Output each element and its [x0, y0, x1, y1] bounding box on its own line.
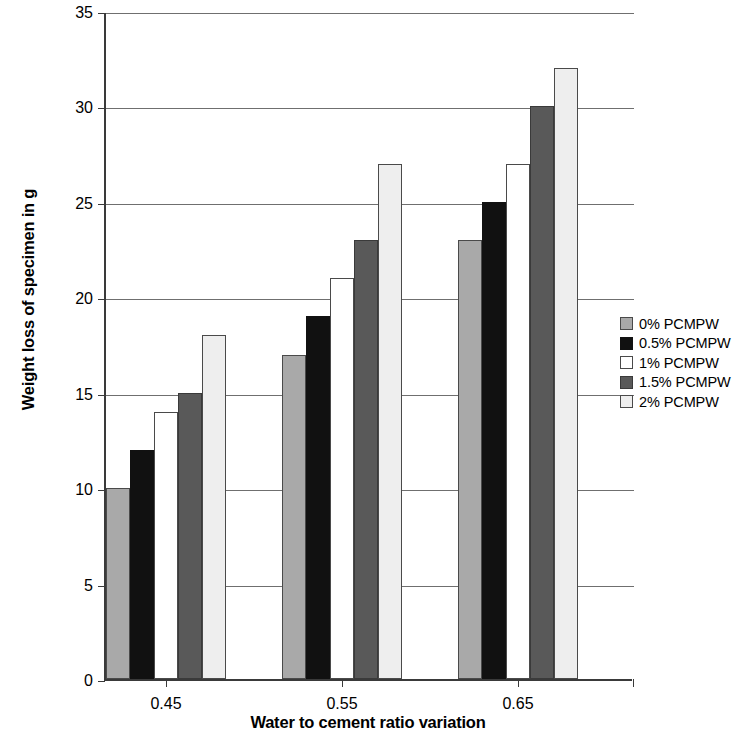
- x-axis-end-tick: [633, 679, 634, 687]
- legend-swatch-icon: [620, 395, 633, 408]
- y-axis-tick: [98, 13, 105, 14]
- chart-legend: 0% PCMPW0.5% PCMPW1% PCMPW1.5% PCMPW2% P…: [620, 314, 748, 412]
- legend-swatch-icon: [620, 317, 633, 330]
- legend-item: 1% PCMPW: [620, 353, 748, 373]
- x-axis-tick: [166, 679, 167, 687]
- y-axis-tick: [98, 108, 105, 109]
- bar: [178, 393, 202, 679]
- y-axis-tick-label: 5: [53, 577, 93, 595]
- y-axis-tick: [98, 681, 105, 682]
- plot-area: 051015202530350.450.550.65: [104, 13, 632, 681]
- y-axis-tick: [98, 204, 105, 205]
- bar: [282, 355, 306, 679]
- legend-swatch-icon: [620, 356, 633, 369]
- legend-item: 0.5% PCMPW: [620, 334, 748, 354]
- y-axis-tick-label: 20: [53, 290, 93, 308]
- bar-group: [282, 11, 402, 679]
- bar: [330, 278, 354, 679]
- y-axis-tick-label: 0: [53, 672, 93, 690]
- y-axis-tick-label: 15: [53, 386, 93, 404]
- y-axis-tick: [98, 395, 105, 396]
- y-axis-title: Weight loss of specimen in g: [19, 120, 38, 480]
- bar: [202, 335, 226, 679]
- x-axis-tick: [518, 679, 519, 687]
- bar: [378, 164, 402, 679]
- bar: [482, 202, 506, 679]
- legend-item: 0% PCMPW: [620, 314, 748, 334]
- y-axis-tick-label: 30: [53, 99, 93, 117]
- x-axis-tick-label: 0.65: [502, 695, 533, 713]
- bar: [354, 240, 378, 679]
- bar: [458, 240, 482, 679]
- bar: [530, 106, 554, 679]
- x-axis-tick: [342, 679, 343, 687]
- legend-item-label: 0% PCMPW: [639, 316, 719, 332]
- legend-item: 1.5% PCMPW: [620, 373, 748, 393]
- x-axis-tick-label: 0.55: [326, 695, 357, 713]
- legend-item-label: 2% PCMPW: [639, 394, 719, 410]
- legend-item-label: 0.5% PCMPW: [639, 335, 731, 351]
- y-axis-tick-label: 10: [53, 481, 93, 499]
- y-axis-tick-label: 25: [53, 195, 93, 213]
- legend-item: 2% PCMPW: [620, 392, 748, 412]
- x-axis-title: Water to cement ratio variation: [104, 713, 632, 732]
- bar: [130, 450, 154, 679]
- bar: [154, 412, 178, 679]
- y-axis-tick: [98, 299, 105, 300]
- legend-swatch-icon: [620, 337, 633, 350]
- legend-item-label: 1.5% PCMPW: [639, 374, 731, 390]
- x-axis-tick-label: 0.45: [150, 695, 181, 713]
- bar-chart: Weight loss of specimen in g 05101520253…: [0, 0, 749, 743]
- bar: [306, 316, 330, 679]
- y-axis-tick: [98, 586, 105, 587]
- legend-swatch-icon: [620, 376, 633, 389]
- bar: [506, 164, 530, 679]
- bar-group: [458, 11, 578, 679]
- bar-group: [106, 11, 226, 679]
- y-axis-tick: [98, 490, 105, 491]
- bar: [554, 68, 578, 679]
- bar: [106, 488, 130, 679]
- y-axis-tick-label: 35: [53, 4, 93, 22]
- legend-item-label: 1% PCMPW: [639, 355, 719, 371]
